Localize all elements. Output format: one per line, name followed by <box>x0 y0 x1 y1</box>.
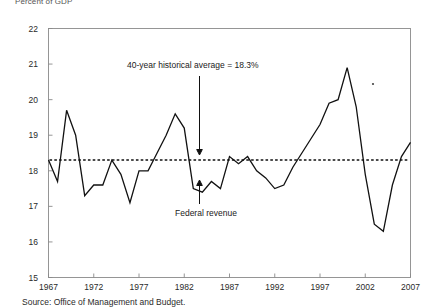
y-axis-label: 15 <box>16 274 38 282</box>
y-axis-label: 16 <box>16 238 38 246</box>
y-axis-label: 17 <box>16 202 38 210</box>
series-annotation-arrow-head <box>197 180 203 186</box>
x-axis-label: 1992 <box>255 283 295 291</box>
chart-root: Percent of GDP 1516171819202122 19671972… <box>0 0 428 308</box>
series-annotation-label: Federal revenue <box>175 208 237 218</box>
average-annotation-arrow-head <box>197 150 203 156</box>
x-axis-label: 1987 <box>210 283 250 291</box>
y-axis-label: 22 <box>16 25 38 33</box>
data-series-line <box>49 68 411 232</box>
x-axis-label: 1982 <box>164 283 204 291</box>
y-axis-label: 20 <box>16 96 38 104</box>
y-axis-label: 18 <box>16 167 38 175</box>
x-axis-label: 1997 <box>300 283 340 291</box>
x-axis-label: 1972 <box>74 283 114 291</box>
average-annotation-label: 40-year historical average = 18.3% <box>127 60 259 70</box>
y-axis-label: 21 <box>16 60 38 68</box>
x-axis-label: 2007 <box>391 283 428 291</box>
y-axis-label: 19 <box>16 131 38 139</box>
chart-plot-area <box>0 0 428 308</box>
x-axis-label: 1977 <box>119 283 159 291</box>
x-axis-label: 2002 <box>345 283 385 291</box>
x-axis-label: 1967 <box>29 283 69 291</box>
source-note: Source: Office of Management and Budget. <box>22 297 185 307</box>
scan-speck <box>372 83 374 85</box>
